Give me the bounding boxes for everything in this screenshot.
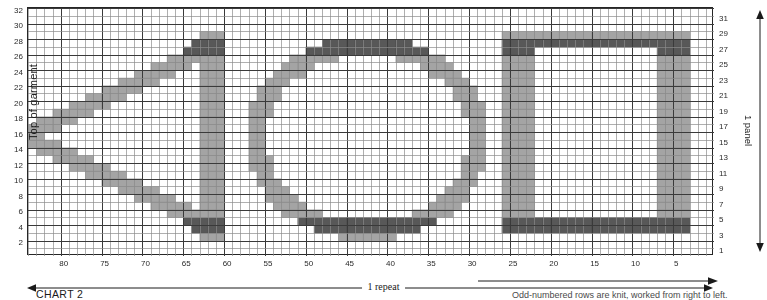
- y-axis-right-tick: 7: [719, 201, 737, 209]
- y-axis-right-tick: 11: [719, 170, 737, 178]
- y-axis-right-tick: 13: [719, 154, 737, 162]
- y-axis-left-tick: 4: [5, 224, 23, 232]
- y-axis-right-tick: 27: [719, 46, 737, 54]
- y-axis-left-tick: 14: [5, 146, 23, 154]
- x-axis-tick: 60: [215, 260, 239, 268]
- x-axis-tick: 75: [93, 260, 117, 268]
- right-arrow-icon: [478, 275, 718, 287]
- y-axis-left-tick: 26: [5, 53, 23, 61]
- y-axis-left-tick: 24: [5, 69, 23, 77]
- y-axis-left-tick: 20: [5, 100, 23, 108]
- x-axis-tick: 25: [501, 260, 525, 268]
- y-axis-right-tick: 15: [719, 139, 737, 147]
- y-axis-right-tick: 29: [719, 30, 737, 38]
- x-axis-tick: 55: [256, 260, 280, 268]
- page-title: CHART 2: [36, 288, 83, 300]
- y-axis-left-tick: 8: [5, 193, 23, 201]
- chart-gridlines: [28, 8, 714, 256]
- x-axis-tick: 5: [664, 260, 688, 268]
- y-axis-left-tick: 12: [5, 162, 23, 170]
- x-axis-tick: 80: [52, 260, 76, 268]
- y-axis-label-top-of-garment: Top of garment: [27, 47, 39, 157]
- y-axis-left-tick: 22: [5, 84, 23, 92]
- x-axis-tick: 40: [378, 260, 402, 268]
- x-axis-tick: 30: [460, 260, 484, 268]
- y-axis-right-tick: 25: [719, 61, 737, 69]
- y-axis-right-tick: 17: [719, 123, 737, 131]
- stitch-chart-grid: [27, 7, 713, 255]
- footnote-odd-rows: Odd-numbered rows are knit, worked from …: [512, 290, 728, 300]
- y-axis-right-tick: 3: [719, 232, 737, 240]
- y-axis-right-tick: 21: [719, 92, 737, 100]
- x-axis-tick: 35: [419, 260, 443, 268]
- y-axis-label-one-panel: 1 panel: [743, 101, 754, 161]
- y-axis-left-tick: 30: [5, 22, 23, 30]
- y-axis-left-tick: 32: [5, 7, 23, 15]
- x-axis-tick: 15: [583, 260, 607, 268]
- y-axis-right-tick: 5: [719, 216, 737, 224]
- repeat-label: 1 repeat: [362, 281, 406, 292]
- up-down-arrow-icon: [754, 10, 766, 252]
- y-axis-right-tick: 1: [719, 247, 737, 255]
- x-axis-tick: 70: [133, 260, 157, 268]
- y-axis-left-tick: 18: [5, 115, 23, 123]
- y-axis-left-tick: 16: [5, 131, 23, 139]
- x-axis-tick: 10: [623, 260, 647, 268]
- y-axis-left-tick: 10: [5, 177, 23, 185]
- y-axis-left-tick: 28: [5, 38, 23, 46]
- y-axis-right-tick: 23: [719, 77, 737, 85]
- x-axis-tick: 20: [542, 260, 566, 268]
- y-axis-right-tick: 31: [719, 15, 737, 23]
- y-axis-right-tick: 19: [719, 108, 737, 116]
- x-axis-tick: 65: [174, 260, 198, 268]
- x-axis-tick: 50: [297, 260, 321, 268]
- y-axis-left-tick: 6: [5, 208, 23, 216]
- y-axis-right-tick: 9: [719, 185, 737, 193]
- x-axis-tick: 45: [338, 260, 362, 268]
- y-axis-left-tick: 2: [5, 239, 23, 247]
